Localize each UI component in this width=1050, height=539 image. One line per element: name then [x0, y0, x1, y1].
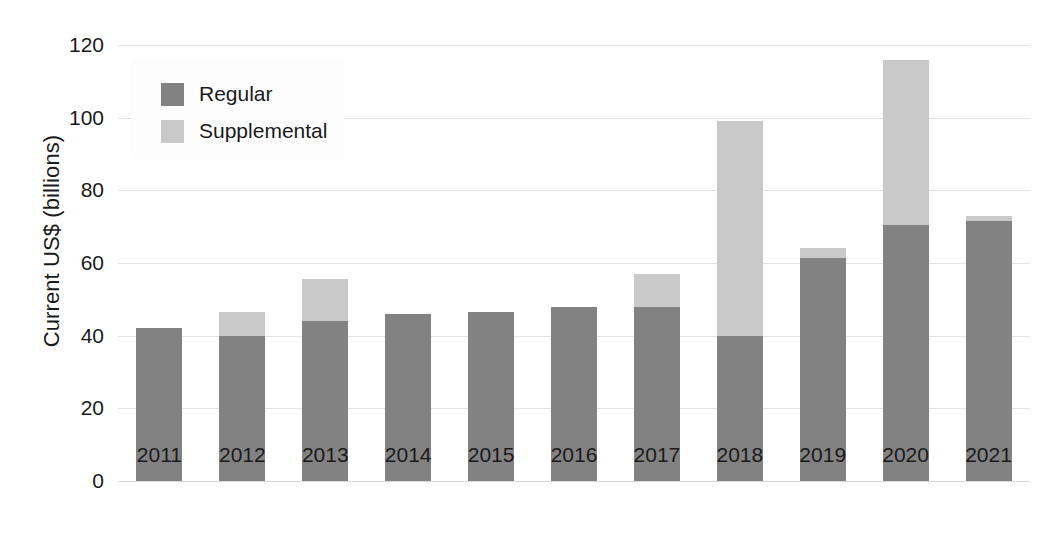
x-tick-label-2019: 2019: [778, 444, 868, 465]
x-tick-label-2021: 2021: [944, 444, 1034, 465]
y-tick-label-40: 40: [34, 325, 104, 346]
bar-group-2019[interactable]: [800, 45, 846, 481]
bar-segment-supplemental-2021[interactable]: [966, 216, 1012, 221]
y-tick-label-100: 100: [34, 107, 104, 128]
bar-segment-supplemental-2012[interactable]: [219, 312, 265, 336]
y-axis-title: Current US$ (billions): [39, 21, 65, 461]
bar-segment-supplemental-2013[interactable]: [302, 279, 348, 321]
gridline-0: [118, 481, 1030, 482]
x-tick-label-2013: 2013: [280, 444, 370, 465]
y-tick-label-120: 120: [34, 34, 104, 55]
chart-legend: RegularSupplemental: [131, 60, 344, 159]
x-tick-label-2017: 2017: [612, 444, 702, 465]
bar-group-2016[interactable]: [551, 45, 597, 481]
stacked-bar-chart: Current US$ (billions) 020406080100120 2…: [0, 0, 1050, 539]
y-tick-label-60: 60: [34, 252, 104, 273]
x-tick-label-2011: 2011: [114, 444, 204, 465]
y-tick-label-20: 20: [34, 397, 104, 418]
bar-segment-supplemental-2020[interactable]: [883, 60, 929, 225]
bar-segment-supplemental-2019[interactable]: [800, 248, 846, 257]
bar-group-2018[interactable]: [717, 45, 763, 481]
bar-group-2014[interactable]: [385, 45, 431, 481]
x-tick-label-2012: 2012: [197, 444, 287, 465]
bar-group-2020[interactable]: [883, 45, 929, 481]
bar-group-2017[interactable]: [634, 45, 680, 481]
legend-item-supplemental[interactable]: Supplemental: [161, 116, 344, 146]
x-tick-label-2018: 2018: [695, 444, 785, 465]
x-tick-label-2015: 2015: [446, 444, 536, 465]
x-tick-label-2016: 2016: [529, 444, 619, 465]
bar-segment-supplemental-2017[interactable]: [634, 274, 680, 307]
y-tick-label-0: 0: [34, 470, 104, 491]
legend-swatch-icon-supplemental: [161, 120, 184, 143]
bar-group-2021[interactable]: [966, 45, 1012, 481]
legend-item-regular[interactable]: Regular: [161, 79, 344, 109]
legend-label-supplemental: Supplemental: [199, 119, 327, 143]
x-tick-label-2020: 2020: [861, 444, 951, 465]
y-tick-label-80: 80: [34, 179, 104, 200]
bar-segment-supplemental-2018[interactable]: [717, 121, 763, 335]
x-tick-label-2014: 2014: [363, 444, 453, 465]
legend-swatch-icon-regular: [161, 83, 184, 106]
legend-label-regular: Regular: [199, 82, 273, 106]
bar-group-2015[interactable]: [468, 45, 514, 481]
